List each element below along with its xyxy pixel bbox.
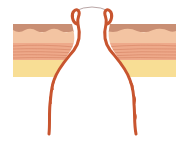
- diagram-canvas: [0, 0, 188, 141]
- left-tissue-layers: [13, 24, 93, 77]
- fat-layer-right: [100, 60, 180, 77]
- opening-arc: [75, 7, 109, 11]
- fat-layer-left: [13, 60, 93, 77]
- tissue-tract-diagram: [0, 0, 188, 141]
